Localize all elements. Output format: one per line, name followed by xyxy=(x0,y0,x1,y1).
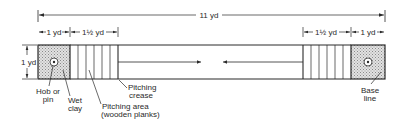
right-clay-dimension-label: 1 yd xyxy=(360,28,375,37)
overall-dimension: 11 yd xyxy=(38,10,385,22)
base-line-label-line2: line xyxy=(364,94,377,103)
right-pitching-area xyxy=(303,45,343,79)
arrow-left-icon xyxy=(39,13,44,16)
left-clay-dimension-label: 1 yd xyxy=(46,28,61,37)
width-dimension-label: 1 yd xyxy=(21,58,36,67)
leader-lines xyxy=(49,66,381,104)
pitching-crease-label-line2: crease xyxy=(129,91,154,100)
overall-dimension-label: 11 yd xyxy=(200,11,219,20)
left-hob-pin-icon xyxy=(50,58,58,66)
right-pitching-dimension-label: 1½ yd xyxy=(315,28,337,37)
right-hob-pin-icon xyxy=(364,58,372,66)
labels: Hob or pin Wet clay Pitching area (woode… xyxy=(36,83,380,119)
width-dimension: 1 yd xyxy=(21,45,37,79)
sub-dimensions: 1 yd 1½ yd 1½ yd 1 yd xyxy=(39,27,384,37)
arrow-right-icon xyxy=(379,13,384,16)
court-diagram: 11 yd 1 yd 1½ yd 1½ yd xyxy=(0,0,407,127)
left-pitching-area xyxy=(78,45,118,79)
hob-pin-label-line2: pin xyxy=(43,95,54,104)
pitching-area-label-line2: (wooden planks) xyxy=(101,110,160,119)
left-pitching-dimension-label: 1½ yd xyxy=(82,28,104,37)
wet-clay-label-line2: clay xyxy=(68,104,82,113)
